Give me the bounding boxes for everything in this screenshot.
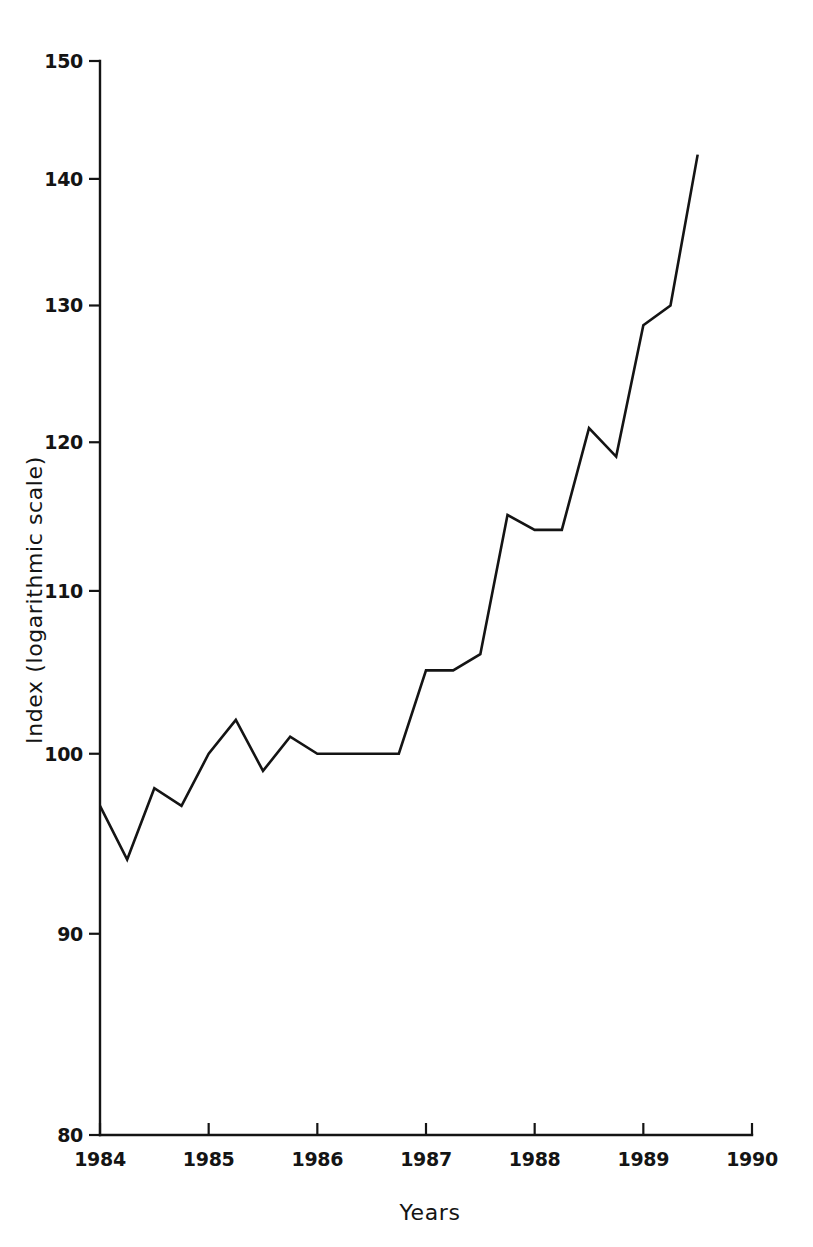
y-axis-title: Index (logarithmic scale) [22,456,47,744]
chart-canvas: 8090100110120130140150 19841985198619871… [0,0,813,1247]
x-tick-label: 1990 [726,1148,778,1170]
chart-figure: 8090100110120130140150 19841985198619871… [0,0,813,1247]
x-tick-label: 1984 [74,1148,126,1170]
y-tick-label: 150 [44,50,83,72]
y-tick-label: 130 [44,294,83,316]
y-axis-ticks: 8090100110120130140150 [44,50,100,1146]
x-tick-label: 1988 [509,1148,561,1170]
y-tick-label: 90 [57,923,83,945]
x-axis-ticks: 1984198519861987198819891990 [74,1123,778,1170]
data-series-group [100,155,698,860]
x-tick-label: 1987 [400,1148,452,1170]
y-tick-label: 110 [44,580,83,602]
index-line-series [100,155,698,860]
x-axis-title: Years [398,1200,460,1225]
x-tick-label: 1986 [291,1148,343,1170]
y-tick-label: 120 [44,431,83,453]
x-tick-label: 1985 [183,1148,235,1170]
y-tick-label: 80 [57,1124,83,1146]
x-tick-label: 1989 [617,1148,669,1170]
y-tick-label: 140 [44,168,83,190]
axes-group [100,61,752,1135]
y-tick-label: 100 [44,743,83,765]
